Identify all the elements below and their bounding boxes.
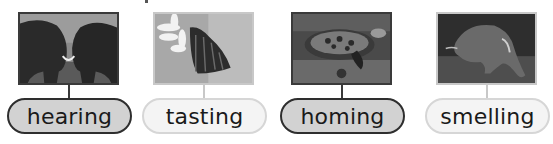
- sense-label-text: smelling: [440, 104, 534, 129]
- card-tasting: tasting: [142, 0, 268, 144]
- butterfly-photo: [153, 12, 254, 85]
- connector-line: [68, 85, 70, 99]
- sense-label-text: hearing: [27, 104, 112, 129]
- sense-label-text: homing: [300, 104, 384, 129]
- elephants-photo: [18, 12, 119, 85]
- sense-label-text: tasting: [166, 104, 244, 129]
- connector-line: [486, 85, 488, 99]
- sea-turtle-photo: [291, 12, 392, 85]
- aardvark-photo: [436, 12, 537, 85]
- sense-label-homing[interactable]: homing: [280, 98, 405, 134]
- sense-label-hearing[interactable]: hearing: [7, 98, 132, 134]
- sense-label-tasting[interactable]: tasting: [142, 98, 267, 134]
- sense-label-smelling[interactable]: smelling: [425, 98, 550, 134]
- connector-line: [341, 85, 343, 99]
- connector-line: [203, 85, 205, 99]
- card-smelling: smelling: [425, 0, 551, 144]
- card-hearing: hearing: [7, 0, 133, 144]
- card-homing: homing: [280, 0, 406, 144]
